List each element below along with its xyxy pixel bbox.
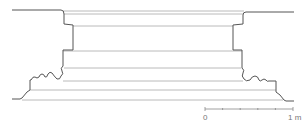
scale-start-label: 0 [203,114,207,122]
scale-end-label: 1 m [288,114,301,122]
left-profile-outline [12,10,73,99]
base-profile-drawing [0,0,307,126]
course-lines [22,11,283,100]
scale-bar [205,107,293,111]
right-profile-outline [233,12,294,101]
